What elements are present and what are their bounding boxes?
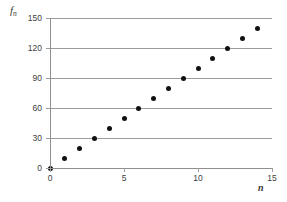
x-tick-label: 15 xyxy=(260,174,284,183)
data-point xyxy=(92,136,97,141)
y-tick-label: 30 xyxy=(12,134,42,143)
gridline-y xyxy=(50,78,272,79)
data-point xyxy=(255,26,260,31)
y-tick-label: 150 xyxy=(12,14,42,23)
y-tick-label: 60 xyxy=(12,104,42,113)
plot-area xyxy=(50,18,272,168)
y-tick-mark xyxy=(46,78,50,79)
gridline-y xyxy=(50,108,272,109)
y-tick-label: 120 xyxy=(12,44,42,53)
data-point xyxy=(240,36,245,41)
data-point xyxy=(107,126,112,131)
y-tick-label: 0 xyxy=(12,164,42,173)
gridline-y xyxy=(50,18,272,19)
x-axis-title: n xyxy=(258,182,264,193)
y-tick-mark xyxy=(46,18,50,19)
data-point xyxy=(77,146,82,151)
gridline-y xyxy=(50,48,272,49)
data-point xyxy=(225,46,230,51)
data-point xyxy=(151,96,156,101)
scatter-chart: fn n 0510150306090120150 xyxy=(0,0,287,202)
y-tick-mark xyxy=(46,108,50,109)
data-point xyxy=(122,116,127,121)
data-point xyxy=(136,106,141,111)
x-tick-mark xyxy=(124,168,125,172)
data-point xyxy=(166,86,171,91)
gridline-y xyxy=(50,138,272,139)
x-tick-mark xyxy=(50,168,51,172)
data-point xyxy=(196,66,201,71)
x-tick-mark xyxy=(198,168,199,172)
y-tick-mark xyxy=(46,168,50,169)
y-tick-mark xyxy=(46,138,50,139)
data-point xyxy=(181,76,186,81)
x-tick-label: 10 xyxy=(186,174,210,183)
data-point xyxy=(62,156,67,161)
y-tick-mark xyxy=(46,48,50,49)
x-tick-label: 0 xyxy=(38,174,62,183)
x-tick-label: 5 xyxy=(112,174,136,183)
x-tick-mark xyxy=(272,168,273,172)
x-axis-line xyxy=(50,168,272,169)
y-axis-line xyxy=(50,18,51,168)
y-tick-label: 90 xyxy=(12,74,42,83)
data-point xyxy=(210,56,215,61)
